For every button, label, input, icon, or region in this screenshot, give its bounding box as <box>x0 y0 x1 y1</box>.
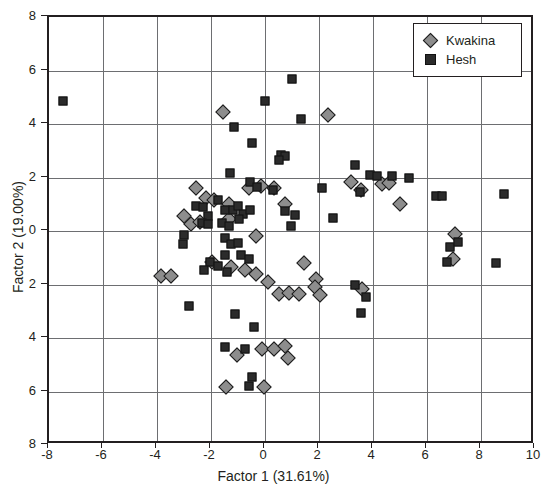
legend-label-hesh: Hesh <box>446 52 476 67</box>
data-point-hesh <box>405 173 414 182</box>
data-point-hesh <box>58 97 67 106</box>
data-point-hesh <box>261 97 270 106</box>
data-point-hesh <box>204 220 213 229</box>
data-point-hesh <box>247 138 256 147</box>
gridline-vertical <box>211 17 212 441</box>
y-tick-mark <box>41 15 47 16</box>
gridline-vertical <box>319 17 320 441</box>
data-point-hesh <box>246 205 255 214</box>
data-point-hesh <box>491 259 500 268</box>
gridline-horizontal <box>49 178 531 179</box>
data-point-hesh <box>355 188 364 197</box>
y-tick-mark <box>41 229 47 230</box>
x-axis-label: Factor 1 (31.61%) <box>0 468 547 484</box>
gridline-vertical <box>427 17 428 441</box>
x-tick-label: 8 <box>475 447 482 462</box>
legend-item-kwakina: Kwakina <box>423 31 513 50</box>
data-point-hesh <box>244 255 253 264</box>
scatter-plot-figure: -8-6-4-20246810 864202468 Factor 1 (31.6… <box>0 0 547 494</box>
gridline-horizontal <box>49 124 531 125</box>
y-tick-mark <box>41 283 47 284</box>
x-tick-label: -8 <box>41 447 53 462</box>
x-tick-label: 6 <box>421 447 428 462</box>
gridline-vertical <box>265 17 266 441</box>
data-point-hesh <box>220 251 229 260</box>
data-point-kwakina <box>215 104 231 120</box>
x-tick-label: 10 <box>526 447 540 462</box>
legend-item-hesh: Hesh <box>423 50 513 69</box>
plot-area <box>47 15 533 443</box>
data-point-hesh <box>269 185 278 194</box>
data-point-kwakina <box>256 380 272 396</box>
data-point-hesh <box>234 239 243 248</box>
y-tick-mark <box>41 122 47 123</box>
data-point-hesh <box>387 172 396 181</box>
data-point-hesh <box>198 202 207 211</box>
data-point-hesh <box>454 237 463 246</box>
data-point-hesh <box>224 221 233 230</box>
gridline-horizontal <box>49 392 531 393</box>
diamond-marker-icon <box>423 33 438 48</box>
data-point-hesh <box>180 231 189 240</box>
data-point-kwakina <box>296 255 312 271</box>
gridline-horizontal <box>49 338 531 339</box>
x-tick-label: 4 <box>367 447 374 462</box>
gridline-vertical <box>373 17 374 441</box>
x-tick-label: 2 <box>313 447 320 462</box>
data-point-hesh <box>229 122 238 131</box>
data-point-hesh <box>281 206 290 215</box>
data-point-hesh <box>240 344 249 353</box>
y-tick-mark <box>41 443 47 444</box>
data-point-hesh <box>356 308 365 317</box>
data-point-kwakina <box>260 274 276 290</box>
data-point-hesh <box>317 184 326 193</box>
data-point-kwakina <box>291 286 307 302</box>
x-tick-label: -6 <box>95 447 107 462</box>
y-tick-mark <box>41 176 47 177</box>
square-marker-icon <box>423 52 438 67</box>
data-point-hesh <box>231 309 240 318</box>
data-point-hesh <box>235 214 244 223</box>
data-point-kwakina <box>280 350 296 366</box>
y-tick-label: 8 <box>14 8 36 23</box>
legend: Kwakina Hesh <box>413 23 522 77</box>
data-point-hesh <box>250 323 259 332</box>
data-point-hesh <box>200 265 209 274</box>
data-point-hesh <box>362 292 371 301</box>
data-point-kwakina <box>218 380 234 396</box>
data-point-hesh <box>290 210 299 219</box>
data-point-hesh <box>288 74 297 83</box>
data-point-hesh <box>328 213 337 222</box>
data-point-hesh <box>437 192 446 201</box>
data-point-hesh <box>351 280 360 289</box>
x-tick-label: -4 <box>149 447 161 462</box>
data-point-hesh <box>213 261 222 270</box>
x-tick-label: 0 <box>259 447 266 462</box>
data-point-hesh <box>252 182 261 191</box>
gridline-vertical <box>481 17 482 441</box>
x-tick-label: -2 <box>203 447 215 462</box>
gridline-vertical <box>157 17 158 441</box>
data-point-hesh <box>499 189 508 198</box>
gridline-vertical <box>103 17 104 441</box>
data-point-kwakina <box>321 107 337 123</box>
data-point-kwakina <box>392 196 408 212</box>
data-point-hesh <box>185 301 194 310</box>
data-point-hesh <box>220 343 229 352</box>
y-tick-mark <box>41 336 47 337</box>
y-tick-mark <box>41 69 47 70</box>
legend-label-kwakina: Kwakina <box>446 33 495 48</box>
data-point-hesh <box>286 221 295 230</box>
data-point-hesh <box>373 172 382 181</box>
data-point-kwakina <box>163 269 179 285</box>
data-point-hesh <box>274 156 283 165</box>
data-point-hesh <box>223 268 232 277</box>
data-point-hesh <box>247 372 256 381</box>
data-point-hesh <box>351 161 360 170</box>
data-point-hesh <box>297 114 306 123</box>
y-axis-label: Factor 2 (19.00%) <box>10 27 26 447</box>
data-point-hesh <box>244 382 253 391</box>
data-point-hesh <box>443 257 452 266</box>
data-point-hesh <box>213 196 222 205</box>
data-point-hesh <box>225 169 234 178</box>
